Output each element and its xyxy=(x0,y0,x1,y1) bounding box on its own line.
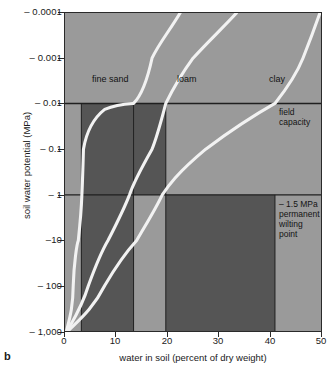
wilting-point-line-4: point xyxy=(279,229,320,239)
wilting-point-line-1: – 1.5 MPa xyxy=(279,199,320,209)
wilting-point-line-2: permanent xyxy=(279,209,320,219)
field-capacity-line-2: capacity xyxy=(279,117,310,127)
x-axis-title: water in soil (percent of dry weight) xyxy=(64,352,322,363)
panel-label: b xyxy=(4,350,11,362)
x-axis-tick-label: 10 xyxy=(110,336,121,346)
y-axis-tick-label: – 1 xyxy=(48,190,62,200)
field-capacity-annotation: field capacity xyxy=(279,107,310,127)
y-axis-tick-label: –10 xyxy=(46,235,62,245)
plot-area: fine sand loam clay field capacity – 1.5… xyxy=(64,12,322,332)
x-axis-tick-label: 40 xyxy=(265,336,276,346)
curve-label-fine-sand: fine sand xyxy=(92,74,129,84)
field-capacity-line-1: field xyxy=(279,107,310,117)
y-axis-tick-label: – 0.0001 xyxy=(24,7,62,17)
wilting-point-line-3: wilting xyxy=(279,219,320,229)
y-axis-tick-label: – 100 xyxy=(38,281,62,291)
x-axis-tick-label: 0 xyxy=(61,336,66,346)
wilting-point-annotation: – 1.5 MPa permanent wilting point xyxy=(279,199,320,239)
y-axis-tick-label: – 0.001 xyxy=(30,53,62,63)
curve-label-loam: loam xyxy=(177,74,197,84)
curve-label-clay: clay xyxy=(269,74,285,84)
y-axis-tick-label: – 0.01 xyxy=(35,98,62,108)
y-axis-tick-label: – 1,000 xyxy=(30,327,62,337)
y-axis-title: soil water potential (MPa) xyxy=(21,76,32,256)
y-axis-tick-label: – 0.1 xyxy=(40,144,62,154)
chart-canvas xyxy=(65,13,321,331)
x-axis-tick-label: 20 xyxy=(162,336,173,346)
x-axis-tick-label: 50 xyxy=(316,336,327,346)
x-axis-tick-label: 30 xyxy=(213,336,224,346)
figure-panel-b: – 0.0001 – 0.001 – 0.01 – 0.1 – 1 –10 – … xyxy=(0,0,331,374)
region-clay-available-water xyxy=(166,195,275,331)
region-fine-sand-available-water xyxy=(81,103,133,331)
